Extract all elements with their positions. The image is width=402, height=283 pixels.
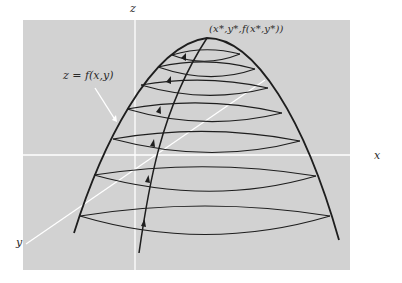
x-axis-label: x bbox=[374, 150, 380, 161]
surface-diagram: z x y z = f(x,y) (x*,y*,f(x*,y*)) bbox=[0, 0, 402, 283]
maximum-point-label: (x*,y*,f(x*,y*)) bbox=[209, 24, 284, 34]
surface-label: z = f(x,y) bbox=[63, 70, 114, 81]
diagram-canvas bbox=[0, 0, 402, 283]
z-axis-label: z bbox=[130, 3, 136, 14]
y-axis-label: y bbox=[16, 237, 22, 248]
plot-panel bbox=[23, 20, 350, 270]
